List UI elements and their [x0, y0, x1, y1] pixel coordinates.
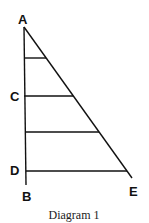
diagram-caption: Diagram 1: [49, 208, 100, 222]
label-e: E: [129, 184, 138, 199]
triangle-diagram: A C D B E Diagram 1: [0, 0, 149, 223]
label-a: A: [18, 12, 28, 27]
label-d: D: [10, 163, 19, 178]
hypotenuse-ae: [24, 27, 132, 178]
label-c: C: [10, 89, 20, 104]
side-ab: [24, 27, 26, 185]
label-b: B: [22, 189, 31, 204]
